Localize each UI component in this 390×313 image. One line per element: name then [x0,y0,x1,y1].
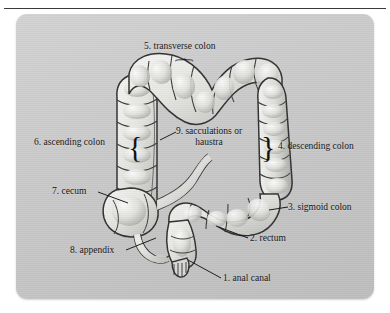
label-rectum: 2. rectum [250,233,286,244]
label-appendix: 8. appendix [70,245,114,256]
label-sacculations-haustra: 9. sacculations or haustra [172,126,246,148]
ileum-stub [157,154,212,210]
label-descending-colon: 4. descending colon [278,141,354,152]
brace-transverse-colon: { [176,57,196,62]
label-sigmoid-colon: 3. sigmoid colon [288,202,352,213]
label-ascending-colon: 6. ascending colon [34,137,105,148]
label-transverse-colon: 5. transverse colon [144,41,216,52]
appendix-shape [134,234,171,263]
brace-descending-colon: } [261,132,275,162]
cecum-shape [103,188,158,237]
label-anal-canal: 1. anal canal [223,273,271,284]
figure-panel: 5. transverse colon { 6. ascending colon… [16,14,374,299]
brace-ascending-colon: { [128,132,142,162]
leader-anal-canal [188,260,221,278]
anal-canal-shape [172,258,189,277]
horizontal-rule [4,8,386,9]
label-cecum: 7. cecum [52,186,86,197]
